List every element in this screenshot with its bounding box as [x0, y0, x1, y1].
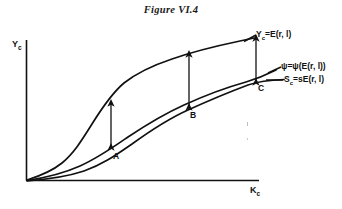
psi-curve-leader: [268, 67, 281, 73]
x-axis-label-sub: c: [257, 190, 261, 197]
point-label-a: A: [113, 152, 119, 161]
point-label-b: B: [190, 111, 196, 120]
psi-curve: [27, 70, 276, 181]
y-axis-label-sub: c: [18, 44, 22, 51]
axis-lines: [26, 40, 259, 181]
output-curve: [27, 38, 254, 180]
point-label-c: C: [258, 84, 264, 93]
output-curve-label-rest: =E(r, l): [265, 29, 291, 39]
savings-curve: [27, 80, 284, 181]
x-axis-label: Kc: [250, 186, 260, 197]
psi-curve-label-rest: =ψ(E(r, l)): [287, 61, 325, 71]
savings-curve-label: Sc=sE(r, l): [284, 75, 324, 86]
figure-container: Figure VI.4: [0, 0, 342, 209]
psi-curve-label: ψ=ψ(E(r, l)): [281, 62, 326, 71]
output-curve-label: Yc=E(r, l): [256, 30, 291, 41]
scan-speck: [247, 138, 248, 140]
scan-speck: [247, 122, 248, 126]
y-axis-label: Yc: [12, 40, 22, 51]
savings-curve-label-rest: =sE(r, l): [293, 74, 324, 84]
